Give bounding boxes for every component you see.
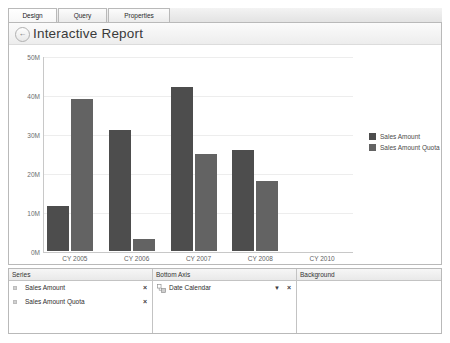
chart-bar[interactable]: [232, 150, 254, 251]
chevron-down-icon[interactable]: ▼: [274, 281, 280, 295]
series-field-row[interactable]: Sales Amount Quota×: [9, 295, 152, 309]
legend-swatch-icon: [369, 133, 376, 140]
report-panel: ← Interactive Report 0M10M20M30M40M50MCY…: [8, 22, 442, 265]
remove-field-button[interactable]: ×: [143, 281, 147, 295]
field-wells: Series Sales Amount×Sales Amount Quota× …: [8, 268, 442, 334]
series-field-label: Sales Amount: [25, 281, 65, 295]
report-designer-window: Design Query Properties ← Interactive Re…: [0, 0, 450, 343]
pane-background: Background: [297, 269, 441, 333]
bar-chart: 0M10M20M30M40M50MCY 2005CY 2006CY 2007CY…: [9, 45, 443, 265]
axis-field-label: Date Calendar: [169, 281, 211, 295]
drag-handle-icon[interactable]: [13, 300, 17, 304]
legend-label: Sales Amount Quota: [380, 144, 440, 151]
chart-legend: Sales AmountSales Amount Quota: [369, 133, 440, 155]
chart-category-group: CY 2008: [229, 56, 291, 251]
legend-swatch-icon: [369, 144, 376, 151]
chart-bar[interactable]: [256, 181, 278, 251]
axis-field-row[interactable]: Date Calendar▼×: [153, 281, 296, 295]
legend-item[interactable]: Sales Amount Quota: [369, 144, 440, 151]
drag-handle-icon[interactable]: [13, 286, 17, 290]
chart-category-group: CY 2007: [168, 56, 230, 251]
page-title: Interactive Report: [33, 24, 143, 44]
chart-category-group: CY 2005: [44, 56, 106, 251]
legend-item[interactable]: Sales Amount: [369, 133, 440, 140]
y-axis-tick-label: 20M: [27, 171, 40, 178]
y-axis-tick-label: 10M: [27, 210, 40, 217]
pane-bottom-axis-header: Bottom Axis: [153, 269, 296, 281]
tab-design[interactable]: Design: [8, 8, 57, 22]
y-axis-tick-label: 0M: [31, 249, 40, 256]
chart-category-group: CY 2006: [106, 56, 168, 251]
series-field-row[interactable]: Sales Amount×: [9, 281, 152, 295]
legend-label: Sales Amount: [380, 133, 420, 140]
chart-bar[interactable]: [71, 99, 93, 251]
series-field-label: Sales Amount Quota: [25, 295, 85, 309]
chart-category-group: CY 2010: [291, 56, 353, 251]
hierarchy-icon: [157, 284, 166, 293]
pane-series: Series Sales Amount×Sales Amount Quota×: [9, 269, 153, 333]
pane-background-header: Background: [297, 269, 441, 281]
chart-bar[interactable]: [109, 130, 131, 251]
x-axis-tick-label: CY 2006: [106, 255, 168, 262]
y-axis-tick-label: 50M: [27, 54, 40, 61]
back-arrow-icon[interactable]: ←: [15, 27, 30, 42]
tab-properties[interactable]: Properties: [108, 8, 170, 22]
x-axis-tick-label: CY 2008: [229, 255, 291, 262]
chart-bar[interactable]: [195, 154, 217, 252]
x-axis-tick-label: CY 2005: [44, 255, 106, 262]
chart-bar[interactable]: [171, 87, 193, 251]
tab-query[interactable]: Query: [58, 8, 107, 22]
chart-bar[interactable]: [47, 206, 69, 251]
pane-bottom-axis: Bottom Axis Date Calendar▼×: [153, 269, 297, 333]
report-titlebar: ← Interactive Report: [9, 23, 441, 45]
chart-plot-area: 0M10M20M30M40M50MCY 2005CY 2006CY 2007CY…: [43, 57, 353, 253]
y-axis-tick-label: 40M: [27, 93, 40, 100]
x-axis-tick-label: CY 2010: [291, 255, 353, 262]
chart-bar[interactable]: [133, 239, 155, 251]
pane-series-header: Series: [9, 269, 152, 281]
y-axis-tick-label: 30M: [27, 132, 40, 139]
remove-field-button[interactable]: ×: [143, 295, 147, 309]
x-axis-tick-label: CY 2007: [168, 255, 230, 262]
remove-field-button[interactable]: ×: [287, 281, 291, 295]
